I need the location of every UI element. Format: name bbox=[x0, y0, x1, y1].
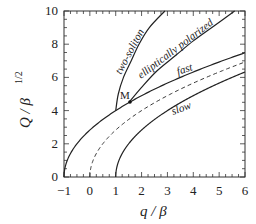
x-tick-label: 3 bbox=[164, 183, 171, 198]
x-tick-label: 2 bbox=[138, 183, 145, 198]
y-tick-label: 2 bbox=[52, 136, 59, 151]
y-axis-label-exponent: 1/2 bbox=[13, 71, 24, 84]
y-tick-label: 10 bbox=[45, 3, 58, 18]
x-tick-label: 5 bbox=[216, 183, 223, 198]
label-slow: slow bbox=[170, 98, 194, 116]
x-tick-labels: −10123456 bbox=[57, 183, 249, 198]
x-tick-label: 0 bbox=[87, 183, 94, 198]
y-ticks bbox=[64, 11, 245, 177]
curves bbox=[64, 11, 245, 177]
fast-curve bbox=[64, 53, 245, 177]
point-m-label: M bbox=[120, 89, 130, 101]
dashed-curve bbox=[90, 62, 245, 177]
x-axis-label: q / β bbox=[140, 203, 167, 219]
x-tick-label: 6 bbox=[242, 183, 249, 198]
y-axis-label: Q / β bbox=[17, 98, 33, 129]
label-elliptic: elliptically polarized bbox=[135, 16, 216, 81]
y-tick-label: 8 bbox=[52, 36, 59, 51]
label-fast: fast bbox=[175, 60, 195, 77]
chart: M two-soliton elliptically polarized fas… bbox=[0, 0, 256, 224]
slow-curve bbox=[116, 72, 245, 177]
y-tick-label: 4 bbox=[52, 103, 59, 118]
x-tick-label: 1 bbox=[112, 183, 119, 198]
y-tick-labels: 0246810 bbox=[45, 3, 59, 184]
x-tick-label: −1 bbox=[57, 183, 71, 198]
x-tick-label: 4 bbox=[190, 183, 197, 198]
y-tick-label: 0 bbox=[52, 169, 59, 184]
y-tick-label: 6 bbox=[52, 69, 59, 84]
x-ticks bbox=[64, 11, 245, 177]
plot-frame bbox=[64, 11, 245, 177]
